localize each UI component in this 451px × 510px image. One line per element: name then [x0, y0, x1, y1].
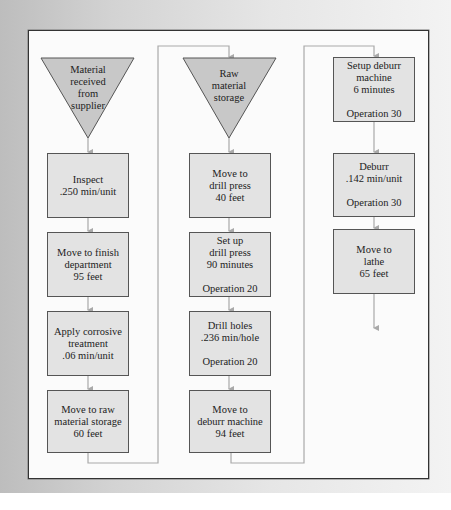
label-line: supplier: [56, 100, 120, 112]
step-line: deburr machine: [197, 416, 263, 428]
step-line: .142 min/unit: [346, 173, 403, 185]
step-line: 60 feet: [74, 428, 103, 440]
step-line: Move to: [212, 168, 247, 180]
step-line: Move to: [356, 244, 391, 256]
step-move-to-drill-press: Move to drill press 40 feet: [189, 153, 271, 218]
step-line: Drill holes: [208, 320, 253, 332]
operation-label: Operation 20: [202, 283, 257, 295]
label-line: received: [56, 76, 120, 88]
step-line: Move to: [212, 404, 247, 416]
step-move-to-raw-storage: Move to raw material storage 60 feet: [47, 390, 129, 453]
step-line: .06 min/unit: [62, 350, 113, 362]
step-move-to-finish: Move to finish department 95 feet: [47, 232, 129, 297]
step-line: department: [64, 259, 111, 271]
step-move-to-deburr: Move to deburr machine 94 feet: [189, 390, 271, 453]
storage-label-supplier: Material received from supplier: [56, 64, 120, 112]
step-line: Set up: [217, 235, 244, 247]
step-line: Move to finish: [57, 247, 119, 259]
step-line: Deburr: [359, 161, 389, 173]
storage-label-raw-material: Raw material storage: [197, 68, 261, 104]
step-drill-holes: Drill holes .236 min/hole Operation 20: [189, 311, 271, 376]
step-inspect: Inspect .250 min/unit: [47, 153, 129, 218]
operation-label: Operation 30: [346, 197, 401, 209]
step-line: Setup deburr: [347, 60, 401, 72]
step-deburr: Deburr .142 min/unit Operation 30: [333, 153, 415, 217]
step-line: 90 minutes: [207, 259, 253, 271]
label-line: material: [197, 80, 261, 92]
step-line: Inspect: [73, 174, 103, 186]
step-line: 94 feet: [216, 428, 245, 440]
step-line: Apply corrosive: [54, 326, 122, 338]
step-line: 65 feet: [360, 268, 389, 280]
step-line: 95 feet: [74, 271, 103, 283]
step-setup-deburr: Setup deburr machine 6 minutes Operation…: [333, 57, 415, 122]
step-line: .250 min/unit: [60, 186, 117, 198]
step-line: material storage: [54, 416, 121, 428]
step-apply-corrosive: Apply corrosive treatment .06 min/unit: [47, 311, 129, 376]
label-line: Material: [56, 64, 120, 76]
operation-label: Operation 20: [202, 356, 257, 368]
step-line: 40 feet: [216, 192, 245, 204]
step-line: drill press: [209, 180, 251, 192]
step-line: Move to raw: [61, 404, 115, 416]
step-line: .236 min/hole: [201, 332, 259, 344]
step-move-to-lathe: Move to lathe 65 feet: [333, 229, 415, 294]
operation-label: Operation 30: [346, 108, 401, 120]
label-line: storage: [197, 92, 261, 104]
step-line: treatment: [68, 338, 108, 350]
step-line: 6 minutes: [353, 84, 394, 96]
step-line: machine: [356, 72, 392, 84]
label-line: Raw: [197, 68, 261, 80]
step-line: drill press: [209, 247, 251, 259]
step-line: lathe: [364, 256, 384, 268]
step-setup-drill-press: Set up drill press 90 minutes Operation …: [189, 232, 271, 297]
label-line: from: [56, 88, 120, 100]
